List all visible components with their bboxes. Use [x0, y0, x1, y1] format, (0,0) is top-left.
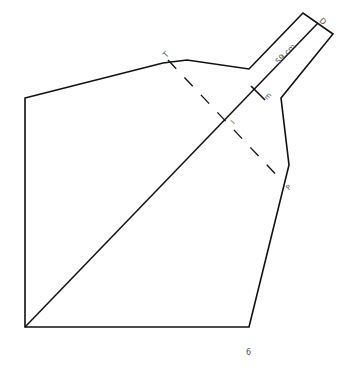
label-t: T — [160, 50, 171, 61]
label-neck-length: 59 cm — [274, 42, 298, 66]
diagram-canvas: T 59 cm D m I P 6 — [0, 0, 349, 367]
label-p: P — [284, 183, 293, 192]
diagonal-line — [25, 23, 318, 327]
label-d: D — [317, 16, 328, 27]
tick-mark — [251, 86, 265, 100]
label-i: I — [229, 119, 236, 126]
dashed-line-t-p — [168, 60, 283, 182]
label-bottom: 6 — [246, 348, 251, 357]
